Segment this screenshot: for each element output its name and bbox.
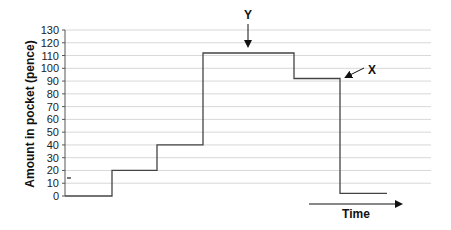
y-tick-label: 50 [47,126,59,138]
x-axis-title: Time [342,207,370,221]
annotation-x-label: X [368,63,376,77]
y-tick-label: 0 [53,190,59,202]
data-series-step-line [65,53,387,196]
y-axis-title: Amount in pocket (pence) [23,40,37,187]
y-tick-label: 100 [41,62,59,74]
y-tick-label: 70 [47,101,59,113]
y-tick-label: 120 [41,37,59,49]
y-axis-ticks: 0102030405060708090100110120130 [41,24,65,202]
y-tick-label: 20 [47,164,59,176]
y-tick-label: 30 [47,152,59,164]
y-tick-label: 10 [47,177,59,189]
y-tick-label: 40 [47,139,59,151]
annotation-x-arrow [346,68,364,77]
y-tick-label: 90 [47,75,59,87]
step-chart: 0102030405060708090100110120130 Y X Time… [0,0,451,230]
small-marker [67,177,71,179]
y-tick-label: 80 [47,88,59,100]
annotation-y-label: Y [244,8,252,22]
y-tick-label: 110 [41,50,59,62]
y-tick-label: 60 [47,113,59,125]
y-tick-label: 130 [41,24,59,36]
